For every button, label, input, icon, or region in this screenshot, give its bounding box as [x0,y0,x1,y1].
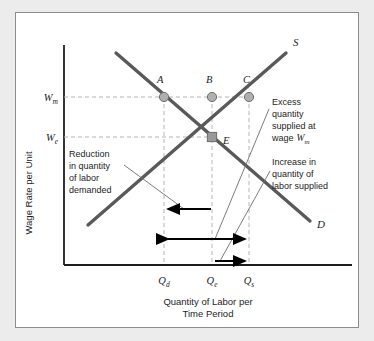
y-tick-wm-sub: m [53,97,59,106]
annot-reduction-line1: Reduction [69,149,110,159]
y-axis-title: Wage Rate per Unit [23,151,34,234]
x-tick-qe: Qe [207,275,219,289]
point-a-label: A [156,74,164,85]
figure-root: Wage Rate per Unit S D [0,0,374,341]
x-tick-qd-sub: d [166,280,170,289]
figure-panel: Wage Rate per Unit S D [15,12,359,328]
annot-increase-line1: Increase in [272,157,316,167]
annot-reduction-line4: demanded [69,185,112,195]
x-tick-qs-sub: s [251,280,254,289]
x-tick-qe-sub: e [214,280,218,289]
annot-increase-line3: labor supplied [272,181,328,191]
point-a-marker [159,92,168,101]
annot-reduction-line2: in quantity [69,161,111,171]
leader-line-excess [215,109,269,239]
x-axis-title-line1: Quantity of Labor per [163,296,252,307]
point-b-marker [207,92,216,101]
x-axis-title-line2: Time Period [183,308,234,319]
point-e-marker [207,132,216,141]
annot-increase-line2: quantity of [272,169,314,179]
annot-excess-word-wage: wage [271,133,294,143]
annot-excess-wm-sub: m [304,138,309,146]
y-tick-wm: Wm [44,92,59,106]
point-e-label: E [222,135,230,146]
annot-excess-line3: supplied at [272,121,316,131]
supply-demand-chart: Wage Rate per Unit S D [16,13,358,327]
y-tick-we-sub: e [55,137,59,146]
x-tick-qs: Qs [244,275,255,289]
point-b-label: B [206,74,213,85]
y-tick-we: We [46,132,59,146]
point-c-marker [244,92,253,101]
annot-excess-line2: quantity [272,109,304,119]
annot-excess-line1: Excess [272,97,302,107]
x-tick-qd: Qd [158,275,170,289]
point-c-label: C [243,74,251,85]
annot-reduction-line3: of labor [69,173,99,183]
annot-excess-line4: wageWm [271,133,310,146]
supply-curve-label: S [293,36,299,48]
demand-curve-label: D [316,218,325,230]
leader-line-increase [220,171,270,261]
